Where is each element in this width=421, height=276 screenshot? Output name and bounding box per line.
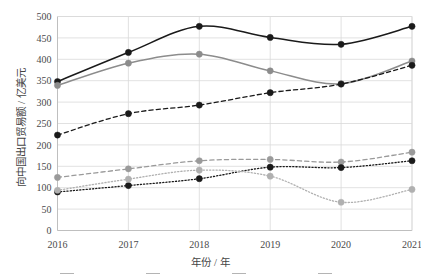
legend-entry: [318, 268, 335, 276]
series-data-point: [267, 156, 273, 162]
series-data-point: [338, 159, 344, 165]
series-data-point: [338, 81, 344, 87]
data-series-group: [54, 23, 415, 205]
legend-entry: [146, 268, 163, 276]
series-data-point: [409, 23, 415, 29]
x-axis-tick-label: 2021: [402, 239, 421, 250]
y-axis-tick-label: 150: [37, 161, 52, 172]
series-data-point: [54, 132, 60, 138]
series-data-point: [125, 176, 131, 182]
series-data-point: [338, 41, 344, 47]
x-axis-tick-label: 2018: [189, 239, 209, 250]
series-data-point: [196, 167, 202, 173]
y-axis-tick-label: 100: [37, 182, 52, 193]
series-data-point: [196, 102, 202, 108]
series-data-point: [338, 164, 344, 170]
series-data-point: [409, 149, 415, 155]
legend-swatch: [60, 273, 74, 274]
legend-entry: [232, 268, 249, 276]
y-axis-tick-label: 400: [37, 54, 52, 65]
series-data-point: [338, 199, 344, 205]
legend-entry: [60, 268, 77, 276]
series-data-point: [196, 176, 202, 182]
series-data-point: [125, 182, 131, 188]
legend-swatch: [232, 273, 246, 274]
y-axis-tick-label: 250: [37, 118, 52, 129]
series-data-point: [54, 82, 60, 88]
x-axis-tick-label: 2016: [48, 239, 68, 250]
x-axis-tick-label: 2020: [331, 239, 351, 250]
series-line: [58, 26, 413, 82]
chart-container: 050100150200250300350400450500 201620172…: [0, 0, 421, 276]
x-axis-title: 年份 / 年: [0, 254, 421, 269]
series-line: [58, 65, 413, 135]
legend-swatch: [146, 273, 160, 274]
plot-gridlines: [58, 17, 413, 231]
data-series: [54, 23, 415, 84]
data-series: [54, 167, 415, 205]
y-axis-tick-label: 50: [42, 204, 52, 215]
y-axis-tick-label: 300: [37, 97, 52, 108]
series-line: [58, 161, 413, 192]
series-data-point: [409, 186, 415, 192]
series-line: [58, 170, 413, 202]
series-line: [58, 152, 413, 177]
data-series: [54, 158, 415, 195]
series-data-point: [267, 68, 273, 74]
series-data-point: [267, 173, 273, 179]
y-axis-tick-label: 450: [37, 33, 52, 44]
series-data-point: [54, 187, 60, 193]
x-axis-tick-label: 2017: [118, 239, 138, 250]
y-axis-tick-label: 500: [37, 11, 52, 22]
x-axis-ticks: 201620172018201920202021: [48, 239, 421, 250]
data-series: [54, 149, 415, 180]
series-data-point: [125, 49, 131, 55]
y-axis-tick-label: 200: [37, 140, 52, 151]
series-data-point: [125, 60, 131, 66]
series-data-point: [196, 23, 202, 29]
y-axis-ticks: 050100150200250300350400450500: [37, 11, 52, 236]
series-data-point: [125, 166, 131, 172]
series-data-point: [409, 158, 415, 164]
series-data-point: [125, 111, 131, 117]
series-data-point: [267, 90, 273, 96]
data-series: [54, 62, 415, 138]
series-data-point: [267, 164, 273, 170]
y-axis-tick-label: 350: [37, 75, 52, 86]
chart-legend: [0, 268, 421, 276]
series-data-point: [196, 51, 202, 57]
data-series: [54, 51, 415, 88]
legend-swatch: [318, 273, 332, 274]
series-data-point: [54, 174, 60, 180]
series-data-point: [409, 62, 415, 68]
series-data-point: [267, 34, 273, 40]
x-axis-tick-label: 2019: [260, 239, 280, 250]
line-chart: 050100150200250300350400450500 201620172…: [0, 0, 421, 276]
y-axis-title: 向中国出口贸易额 / 亿美元: [13, 23, 28, 233]
series-data-point: [196, 158, 202, 164]
y-axis-tick-label: 0: [47, 225, 52, 236]
